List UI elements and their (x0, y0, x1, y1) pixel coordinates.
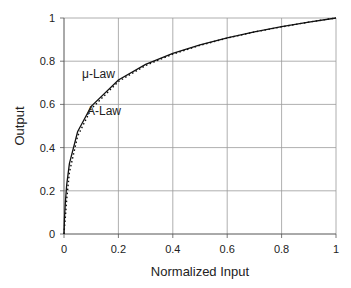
x-tick-label: 0.2 (111, 243, 126, 255)
y-axis-title: Output (12, 106, 27, 145)
y-tick-label: 0.2 (40, 185, 55, 197)
grid-lines (64, 18, 336, 234)
x-tick-label: 0 (61, 243, 67, 255)
x-tick-label: 1 (333, 243, 339, 255)
mu-law-annotation: μ-Law (82, 67, 115, 81)
y-tick-label: 0.4 (40, 142, 55, 154)
y-tick-label: 0 (49, 228, 55, 240)
mu-law-line (64, 18, 336, 234)
y-tick-labels: 00.20.40.60.81 (40, 12, 55, 240)
x-tick-label: 0.8 (274, 243, 289, 255)
x-tick-label: 0.6 (220, 243, 235, 255)
axes (60, 18, 336, 238)
x-tick-label: 0.4 (165, 243, 180, 255)
y-tick-label: 1 (49, 12, 55, 24)
a-law-annotation: A-Law (87, 104, 121, 118)
y-tick-label: 0.6 (40, 98, 55, 110)
companding-chart: 00.20.40.60.81 00.20.40.60.81 μ-Law A-La… (0, 0, 351, 288)
x-tick-labels: 00.20.40.60.81 (61, 243, 339, 255)
a-law-line (64, 18, 336, 234)
x-axis-title: Normalized Input (151, 264, 250, 279)
y-tick-label: 0.8 (40, 55, 55, 67)
